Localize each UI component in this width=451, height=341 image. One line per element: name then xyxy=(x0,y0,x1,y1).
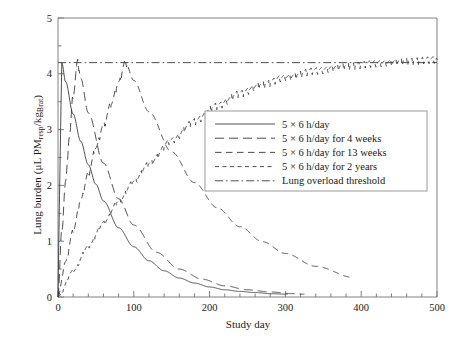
legend-label-4: Lung overload threshold xyxy=(282,175,386,186)
x-tick-label: 100 xyxy=(126,302,142,313)
y-tick-label: 4 xyxy=(47,68,53,79)
legend-label-1: 5 × 6 h/day for 4 weeks xyxy=(282,133,381,144)
x-tick-label: 400 xyxy=(353,302,369,313)
legend-label-0: 5 × 6 h/day xyxy=(282,119,330,130)
chart-figure: Lung burden (μL PMresp/kgBrat) Study day… xyxy=(0,0,451,341)
legend-layer: 5 × 6 h/day5 × 6 h/day for 4 weeks5 × 6 … xyxy=(205,111,427,191)
legend-label-2: 5 × 6 h/day for 13 weeks xyxy=(282,147,386,158)
legend-label-3: 5 × 6 h/day for 2 years xyxy=(282,161,377,172)
x-tick-label: 0 xyxy=(55,302,60,313)
y-tick-label: 2 xyxy=(47,180,52,191)
y-tick-label: 1 xyxy=(47,236,52,247)
y-tick-label: 0 xyxy=(47,292,52,303)
y-tick-label: 5 xyxy=(47,13,52,24)
x-tick-label: 500 xyxy=(429,302,445,313)
x-tick-label: 300 xyxy=(278,302,294,313)
y-tick-label: 3 xyxy=(47,124,52,135)
x-tick-label: 200 xyxy=(202,302,218,313)
plot-area: 0100200300400500012345 5 × 6 h/day5 × 6 … xyxy=(0,0,451,341)
